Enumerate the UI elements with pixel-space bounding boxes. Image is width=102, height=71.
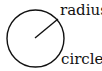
circle-label: circle	[61, 52, 102, 67]
radius-label: radius	[60, 3, 102, 18]
circle-shape	[7, 10, 64, 67]
radius-line	[35, 19, 58, 38]
